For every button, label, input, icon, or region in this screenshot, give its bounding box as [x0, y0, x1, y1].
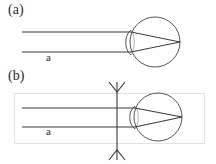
ray-upper-b	[22, 108, 182, 117]
beam-width-label-b: a	[46, 126, 51, 137]
optics-figure: (a) a (b) a	[0, 0, 216, 164]
panel-b-diagram	[0, 0, 216, 164]
eye-globe-outline-b	[134, 93, 182, 141]
